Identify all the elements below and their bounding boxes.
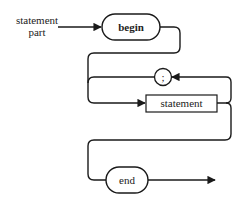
node-begin: begin (102, 14, 160, 40)
syntax-diagram: begin ; statement end (0, 0, 249, 205)
node-semicolon: ; (155, 69, 172, 86)
node-end-label: end (119, 174, 135, 186)
node-end: end (106, 167, 148, 193)
node-semicolon-label: ; (161, 71, 164, 83)
node-statement-label: statement (160, 97, 202, 109)
node-begin-label: begin (118, 21, 144, 33)
semicolon-loop-path (88, 77, 155, 83)
node-statement: statement (146, 95, 217, 112)
statement-exit-path (88, 103, 231, 180)
